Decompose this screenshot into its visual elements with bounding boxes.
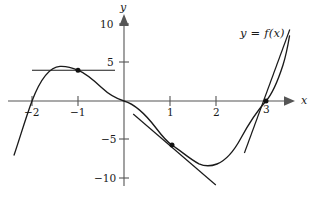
point-local-max <box>76 68 81 73</box>
y-tick-label--10: −10 <box>94 173 116 184</box>
tangent-line-at-x-1 <box>133 114 216 185</box>
x-axis-arrowhead <box>284 96 295 106</box>
x-tick-label--2: −2 <box>24 107 39 118</box>
y-tick-label-10: 10 <box>100 19 113 30</box>
y-tick-label-5: 5 <box>107 57 114 68</box>
x-tick-label-2: 2 <box>213 107 220 118</box>
x-tick-label-3: 3 <box>263 104 270 115</box>
x-tick-label-1: 1 <box>167 107 174 118</box>
x-axis-label: x <box>301 95 307 106</box>
function-label: y = f(x) <box>240 28 285 40</box>
tangent-line-at-x-3 <box>244 30 289 154</box>
graph-figure: −2 −1 1 2 3 10 5 −5 −10 y x y = f(x) <box>0 0 319 197</box>
y-tick-label--5: −5 <box>101 134 116 145</box>
x-tick-label--1: −1 <box>70 107 85 118</box>
point-at-x-1 <box>170 143 175 148</box>
y-axis-label: y <box>120 2 126 13</box>
